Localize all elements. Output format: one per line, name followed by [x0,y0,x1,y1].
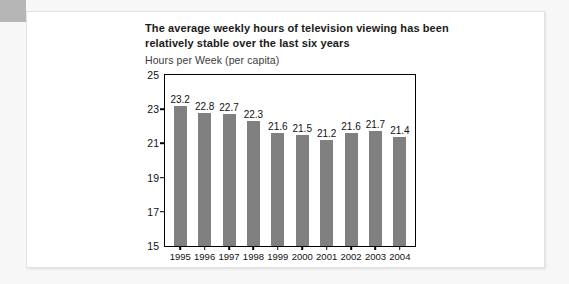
bar-slot: 21.72003 [363,75,387,246]
bar-slot: 21.22001 [314,75,338,246]
x-axis-tick-label: 2001 [316,251,337,262]
y-axis-tick-label: 17 [147,206,159,218]
bar-value-label: 22.3 [244,109,263,120]
x-axis-tick-label: 2004 [389,251,410,262]
bar-chart-plot-area: 151719212325 23.2199522.8199622.7199722.… [164,74,416,247]
bar: 22.7 [223,114,236,246]
bar-series: 23.2199522.8199622.7199722.3199821.61999… [165,75,415,246]
bar: 23.2 [174,106,187,246]
x-axis-tick-label: 1999 [267,251,288,262]
x-axis-tick-label: 1997 [218,251,239,262]
page-title: The average weekly hours of television v… [145,21,475,50]
x-axis-tick-mark [204,246,206,250]
bar: 21.6 [271,133,284,246]
bar-value-label: 23.2 [170,94,189,105]
x-axis-tick-mark [350,246,352,250]
x-axis-tick-mark [228,246,230,250]
x-axis-tick-label: 1996 [194,251,215,262]
bar-value-label: 21.4 [390,125,409,136]
y-axis-tick-label: 21 [147,137,159,149]
y-axis-tick-label: 15 [147,240,159,252]
x-axis-tick-label: 1998 [243,251,264,262]
chart-subtitle: Hours per Week (per capita) [145,54,279,66]
bar-slot: 21.62002 [339,75,363,246]
x-axis-tick-mark [179,246,181,250]
bar: 21.6 [345,133,358,246]
bar-value-label: 21.5 [293,123,312,134]
bar-slot: 21.52000 [290,75,314,246]
bar-value-label: 21.6 [341,121,360,132]
bar-value-label: 21.2 [317,128,336,139]
x-axis-tick-label: 2002 [340,251,361,262]
y-axis-tick-label: 25 [147,69,159,81]
bar-value-label: 21.6 [268,121,287,132]
bar: 22.3 [247,121,260,246]
x-axis-tick-mark [375,246,377,250]
bar-value-label: 22.8 [195,101,214,112]
bar-value-label: 21.7 [366,119,385,130]
x-axis-tick-label: 1995 [170,251,191,262]
bar: 22.8 [198,113,211,246]
x-axis-tick-mark [301,246,303,250]
y-axis-tick-label: 23 [147,103,159,115]
screenshot-root: The average weekly hours of television v… [0,0,569,284]
bar: 21.5 [296,135,309,246]
x-axis-tick-mark [253,246,255,250]
x-axis-tick-mark [399,246,401,250]
chart-card: The average weekly hours of television v… [26,11,545,268]
bar: 21.4 [393,137,406,246]
bar-slot: 21.61999 [266,75,290,246]
x-axis-tick-label: 2003 [365,251,386,262]
bar-slot: 23.21995 [168,75,192,246]
y-axis-tick-label: 19 [147,172,159,184]
decorative-corner-block [0,0,26,22]
bar: 21.2 [320,140,333,246]
x-axis-tick-label: 2000 [292,251,313,262]
bar-slot: 22.81996 [192,75,216,246]
bar-slot: 22.31998 [241,75,265,246]
x-axis-tick-mark [326,246,328,250]
bar-slot: 21.42004 [388,75,412,246]
x-axis-tick-mark [277,246,279,250]
bar-value-label: 22.7 [219,102,238,113]
bar-slot: 22.71997 [217,75,241,246]
bar: 21.7 [369,131,382,246]
